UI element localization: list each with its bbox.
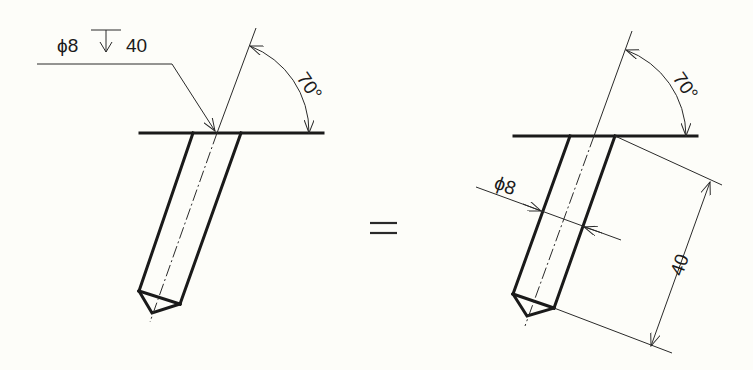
equals-sign [370, 223, 397, 233]
hole-body [513, 136, 615, 316]
hole-edge-right [180, 133, 241, 304]
left-view: 70° ϕ8 40 [37, 28, 326, 322]
length-extension-top [615, 136, 722, 185]
length-extension-bottom [554, 308, 672, 353]
diameter-label: ϕ8 [492, 172, 519, 199]
diameter-arrow-left [523, 204, 541, 211]
angle-dimension-arc [626, 50, 686, 136]
hole-edge-left [513, 136, 570, 294]
callout-depth: 40 [126, 35, 147, 56]
axis-extension-line [594, 31, 632, 136]
callout-diameter: ϕ8 [57, 35, 78, 56]
diameter-arrow-right [584, 227, 602, 233]
axis-extension-line [217, 28, 256, 133]
angle-label: 70° [669, 68, 703, 104]
length-label: 40 [666, 251, 693, 278]
right-view: 70° ϕ8 40 [476, 31, 722, 353]
hole-edge-left [139, 133, 193, 291]
drawing-canvas: 70° ϕ8 40 70° [0, 0, 753, 370]
angle-label: 70° [293, 68, 327, 104]
depth-symbol-icon [91, 30, 121, 52]
hole-body [139, 133, 241, 313]
callout-leader-line [37, 64, 215, 131]
